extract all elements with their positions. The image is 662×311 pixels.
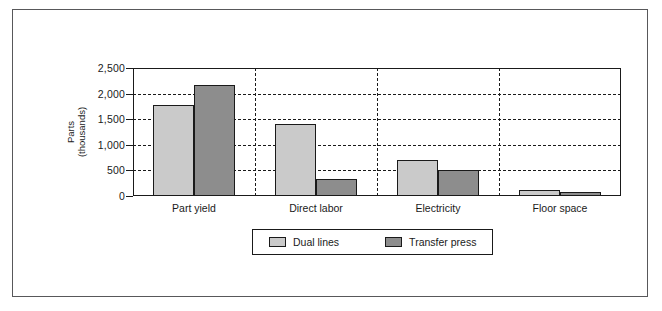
y-axis-title: Parts (thousands) — [65, 68, 87, 196]
x-axis-category-label: Direct labor — [289, 202, 343, 214]
x-axis-category-label: Floor space — [533, 202, 588, 214]
bar — [316, 179, 357, 196]
y-axis-tick-label: 1,000 — [98, 139, 125, 151]
bar — [438, 170, 479, 196]
bar — [275, 124, 316, 196]
y-axis-tick-mark — [126, 94, 133, 95]
legend-entry: Transfer press — [385, 236, 476, 248]
figure-outer-frame: Parts (thousands) 05001,0001,5002,0002,5… — [12, 9, 648, 297]
y-axis-tick-mark — [126, 170, 133, 171]
bar — [560, 192, 601, 196]
bar — [397, 160, 438, 196]
legend-swatch — [385, 237, 402, 247]
y-axis-tick-labels: 05001,0001,5002,0002,500 — [87, 68, 125, 196]
y-axis-tick-label: 2,000 — [98, 88, 125, 100]
legend-entry: Dual lines — [269, 236, 339, 248]
chart-legend: Dual linesTransfer press — [252, 229, 493, 255]
legend-label: Transfer press — [409, 236, 476, 248]
group-separator — [499, 68, 500, 196]
group-separator — [377, 68, 378, 196]
y-axis-tick-label: 500 — [107, 164, 125, 176]
group-separator — [255, 68, 256, 196]
x-axis-category-label: Part yield — [172, 202, 216, 214]
y-axis-tick-label: 1,500 — [98, 113, 125, 125]
y-axis-tick-mark — [126, 145, 133, 146]
x-axis-category-label: Electricity — [416, 202, 461, 214]
bar — [194, 85, 235, 196]
y-axis-tick-mark — [126, 196, 133, 197]
bar — [153, 105, 194, 196]
bar — [519, 190, 560, 196]
legend-swatch — [269, 237, 286, 247]
y-axis-tick-label: 2,500 — [98, 62, 125, 74]
y-axis-title-line2: (thousands) — [76, 107, 87, 157]
y-axis-tick-label: 0 — [119, 190, 125, 202]
plot-area — [133, 68, 621, 196]
y-axis-title-line1: Parts — [65, 107, 76, 157]
y-axis-tick-mark — [126, 68, 133, 69]
legend-label: Dual lines — [293, 236, 339, 248]
y-axis-tick-mark — [126, 119, 133, 120]
